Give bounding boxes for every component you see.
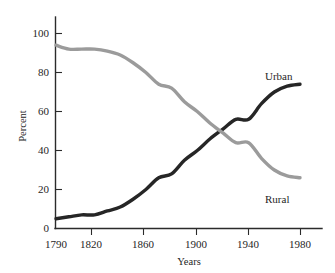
y-tick-label-80: 80 — [38, 66, 50, 78]
series-label-urban: Urban — [265, 70, 293, 82]
y-tick-label-100: 100 — [33, 27, 50, 39]
y-tick-label-40: 40 — [38, 144, 50, 156]
y-axis-title: Percent — [17, 110, 28, 142]
y-tick-label-20: 20 — [38, 183, 50, 195]
series-line-rural — [56, 45, 300, 178]
series-label-rural: Rural — [265, 193, 289, 205]
x-tick-label-1790: 1790 — [45, 238, 68, 250]
population-line-chart: 100 80 60 40 20 0 1790 1820 1860 1900 19… — [0, 0, 335, 273]
x-tick-label-1860: 1860 — [132, 238, 155, 250]
x-tick-label-1980: 1980 — [289, 238, 312, 250]
x-axis-title: Years — [177, 256, 200, 267]
series-line-urban — [56, 84, 300, 219]
chart-container: 100 80 60 40 20 0 1790 1820 1860 1900 19… — [0, 0, 335, 273]
x-tick-label-1900: 1900 — [185, 238, 208, 250]
x-tick-label-1820: 1820 — [80, 238, 103, 250]
x-tick-label-1940: 1940 — [237, 238, 260, 250]
y-tick-label-0: 0 — [44, 222, 50, 234]
y-tick-label-60: 60 — [38, 105, 50, 117]
